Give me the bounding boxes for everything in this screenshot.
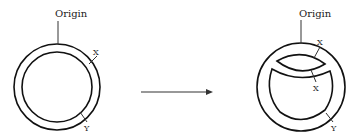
replication-bubble [277,55,325,71]
right-x-top-label: X [317,38,323,47]
left-origin-label: Origin [55,8,88,19]
right-x-bottom-label: X [313,84,319,93]
left-x-label: X [93,48,99,57]
right-y-label: Y [330,124,337,133]
left-circular-molecule: Origin X Y [14,8,100,133]
left-outer-strand [14,44,100,130]
right-inner-loop [269,69,332,120]
arrow-head-icon [206,89,213,95]
right-x-top-tick [314,47,320,58]
right-theta-molecule: Origin X X Y [257,8,345,133]
left-inner-strand [22,52,92,122]
left-y-label: Y [83,124,90,133]
right-origin-label: Origin [299,8,332,19]
replication-diagram: Origin X Y Origin X X Y [0,0,360,140]
transition-arrow [141,89,213,95]
